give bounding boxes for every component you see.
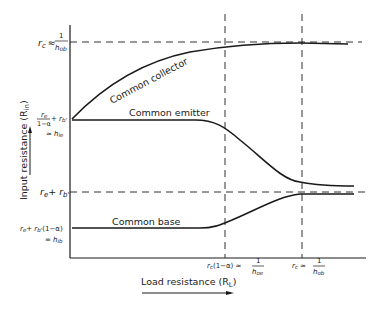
svg-text:Input resistance (Rin): Input resistance (Rin) xyxy=(18,100,31,200)
common-emitter-label: Common emitter xyxy=(129,107,210,118)
x-axis-arrow-head xyxy=(226,291,234,295)
x-label-hoe: rc(1−α) ≈ 1 hoe xyxy=(207,257,264,276)
svg-text:≈ hie: ≈ hie xyxy=(46,130,64,138)
y-label-hib: re+ rb'(1−α) = hib xyxy=(20,225,63,244)
common-collector-curve xyxy=(72,43,348,119)
diagram-canvas: Common collector Common emitter Common b… xyxy=(0,0,380,311)
svg-text:Load resistance (RL): Load resistance (RL) xyxy=(141,276,236,289)
svg-text:rc≈: rc≈ xyxy=(292,262,306,270)
svg-text:re: re xyxy=(41,111,48,119)
svg-text:rc(1−α) ≈: rc(1−α) ≈ xyxy=(207,262,242,270)
y-label-re-rb: re+ rb' xyxy=(40,186,70,199)
common-base-label: Common base xyxy=(112,216,181,227)
svg-text:= hib: = hib xyxy=(45,236,63,244)
svg-text:hob: hob xyxy=(313,268,325,276)
x-axis-title: Load resistance (RL) xyxy=(141,276,236,289)
svg-text:hoe: hoe xyxy=(252,268,264,276)
y-label-hie: re 1−α + rb' ≈ hie xyxy=(37,111,67,138)
svg-text:1: 1 xyxy=(59,32,63,40)
y-axis-title: Input resistance (Rin) xyxy=(18,100,31,200)
y-label-rc-hob: rc≈ 1 hob xyxy=(38,32,68,52)
svg-text:1: 1 xyxy=(256,257,260,265)
svg-text:+ rb': + rb' xyxy=(51,115,67,123)
svg-text:re+ rb': re+ rb' xyxy=(40,186,70,199)
svg-text:hob: hob xyxy=(55,44,67,52)
svg-text:rc≈: rc≈ xyxy=(38,37,56,50)
svg-text:1−α: 1−α xyxy=(37,120,51,128)
svg-text:re+ rb'(1−α): re+ rb'(1−α) xyxy=(20,225,63,233)
common-emitter-curve xyxy=(72,120,354,186)
svg-text:1: 1 xyxy=(317,257,321,265)
transistor-input-resistance-diagram: Common collector Common emitter Common b… xyxy=(0,0,380,311)
x-label-hob: rc≈ 1 hob xyxy=(292,257,325,276)
